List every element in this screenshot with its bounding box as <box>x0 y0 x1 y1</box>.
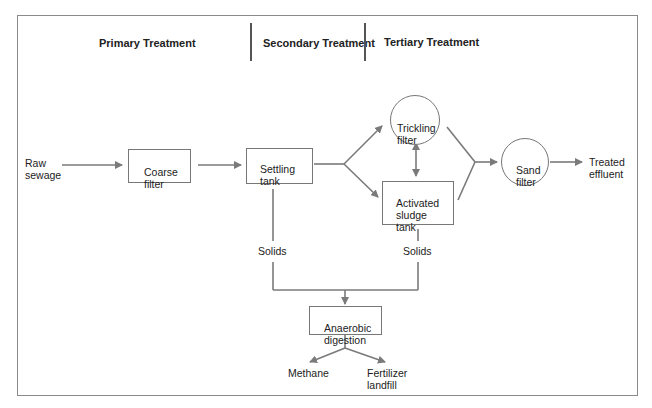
settling-tank-box: Settling tank <box>246 148 313 184</box>
trickling-filter-circle: Trickling filter <box>390 95 440 145</box>
activated-sludge-tank-box: Activated sludge tank <box>382 181 454 225</box>
solids-secondary-label: Solids <box>403 245 432 257</box>
anaerobic-digestion-label: Anaerobic digestion <box>324 322 371 346</box>
treated-effluent-label: Treated effluent <box>589 156 625 180</box>
arrow-to-activated <box>344 164 378 197</box>
arrow-to-methane <box>310 348 345 362</box>
fertilizer-landfill-label: Fertilizer landfill <box>367 367 407 391</box>
settling-tank-label: Settling tank <box>260 163 295 187</box>
sand-filter-circle: Sand filter <box>501 138 549 186</box>
anaerobic-digestion-box: Anaerobic digestion <box>309 306 382 335</box>
arrow-to-fertilizer <box>345 348 385 362</box>
raw-sewage-label: Raw sewage <box>25 157 61 181</box>
methane-label: Methane <box>288 367 329 379</box>
coarse-filter-box: Coarse filter <box>128 149 191 183</box>
solids-primary-label: Solids <box>258 245 287 257</box>
flow-connectors <box>0 0 652 408</box>
arrow-to-trickling <box>344 126 382 164</box>
